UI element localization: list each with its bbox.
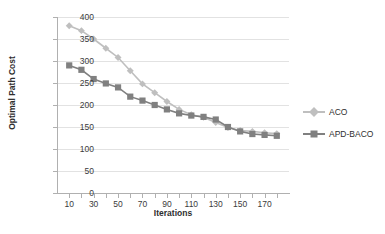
- legend-label-apd-baco: APD-BACO: [329, 129, 373, 139]
- square-marker-icon: [78, 67, 84, 73]
- x-tick-mark: [191, 194, 192, 198]
- y-tick-label: 150: [64, 122, 94, 132]
- legend-item-aco[interactable]: ACO: [303, 101, 383, 123]
- series-line: [69, 65, 277, 135]
- diamond-marker-icon: [66, 22, 73, 29]
- chart-figure: Optimal Path Cost Iterations ACO APD-BAC…: [0, 0, 385, 234]
- y-tick-mark: [53, 127, 57, 128]
- x-tick-label: 130: [209, 199, 223, 209]
- y-tick-label: 300: [64, 56, 94, 66]
- legend-swatch-apd-baco: [303, 129, 325, 139]
- x-tick-label: 90: [162, 199, 171, 209]
- y-tick-label: 100: [64, 144, 94, 154]
- diamond-marker-icon: [309, 107, 319, 117]
- x-tick-label: 150: [233, 199, 247, 209]
- x-tick-mark: [204, 194, 205, 198]
- x-tick-mark: [265, 194, 266, 198]
- square-marker-icon: [200, 114, 206, 120]
- x-tick-mark: [155, 194, 156, 198]
- square-marker-icon: [103, 80, 109, 86]
- square-marker-icon: [225, 124, 231, 130]
- y-tick-mark: [53, 83, 57, 84]
- x-tick-mark: [167, 194, 168, 198]
- x-tick-mark: [228, 194, 229, 198]
- x-tick-mark: [81, 194, 82, 198]
- x-tick-label: 170: [257, 199, 271, 209]
- series-apd-baco: [66, 62, 280, 139]
- y-tick-mark: [53, 149, 57, 150]
- x-axis-title: Iterations: [57, 208, 289, 218]
- x-tick-mark: [106, 194, 107, 198]
- legend-swatch-aco: [303, 107, 325, 117]
- square-marker-icon: [139, 98, 145, 104]
- square-marker-icon: [311, 131, 318, 138]
- square-marker-icon: [213, 116, 219, 122]
- x-tick-mark: [240, 194, 241, 198]
- y-tick-label: 50: [64, 166, 94, 176]
- x-tick-mark: [94, 194, 95, 198]
- y-tick-mark: [53, 17, 57, 18]
- square-marker-icon: [115, 84, 121, 90]
- square-marker-icon: [164, 106, 170, 112]
- x-tick-label: 110: [185, 199, 199, 209]
- x-tick-mark: [216, 194, 217, 198]
- y-tick-label: 250: [64, 78, 94, 88]
- square-marker-icon: [274, 133, 280, 139]
- x-tick-mark: [277, 194, 278, 198]
- x-tick-label: 70: [138, 199, 147, 209]
- y-tick-label: 400: [64, 12, 94, 22]
- series-aco: [66, 22, 281, 137]
- x-tick-mark: [69, 194, 70, 198]
- y-tick-mark: [53, 171, 57, 172]
- legend-item-apd-baco[interactable]: APD-BACO: [303, 123, 383, 145]
- square-marker-icon: [249, 131, 255, 137]
- x-tick-mark: [179, 194, 180, 198]
- square-marker-icon: [176, 110, 182, 116]
- legend-label-aco: ACO: [329, 107, 347, 117]
- y-tick-mark: [53, 105, 57, 106]
- x-tick-mark: [118, 194, 119, 198]
- x-tick-mark: [142, 194, 143, 198]
- x-tick-label: 50: [113, 199, 122, 209]
- square-marker-icon: [152, 102, 158, 108]
- square-marker-icon: [261, 132, 267, 138]
- square-marker-icon: [188, 112, 194, 118]
- y-tick-mark: [53, 61, 57, 62]
- chart-legend: ACO APD-BACO: [303, 101, 383, 145]
- y-tick-mark: [53, 193, 57, 194]
- square-marker-icon: [237, 128, 243, 134]
- x-tick-mark: [252, 194, 253, 198]
- y-tick-label: 350: [64, 34, 94, 44]
- y-tick-label: 200: [64, 100, 94, 110]
- x-tick-mark: [130, 194, 131, 198]
- square-marker-icon: [127, 94, 133, 100]
- series-line: [69, 26, 277, 134]
- x-tick-label: 10: [64, 199, 73, 209]
- x-tick-label: 30: [89, 199, 98, 209]
- y-tick-mark: [53, 39, 57, 40]
